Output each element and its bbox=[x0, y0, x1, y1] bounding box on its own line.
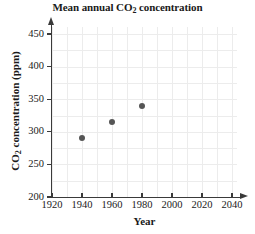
gridline-horizontal bbox=[52, 164, 237, 165]
gridline-horizontal bbox=[52, 83, 237, 84]
plot-area bbox=[52, 27, 237, 197]
gridline-horizontal bbox=[52, 116, 237, 117]
x-axis-tick bbox=[201, 193, 202, 198]
x-axis-tick bbox=[171, 193, 172, 198]
gridline-vertical bbox=[187, 27, 188, 197]
gridline-horizontal bbox=[52, 181, 237, 182]
gridline-vertical bbox=[142, 27, 143, 197]
chart-title-subscript: 2 bbox=[132, 6, 136, 15]
gridline-horizontal bbox=[52, 50, 237, 51]
y-axis-tick bbox=[47, 164, 52, 165]
gridline-vertical bbox=[97, 27, 98, 197]
gridline-horizontal bbox=[52, 99, 237, 100]
y-axis-tick bbox=[47, 66, 52, 67]
chart-title-after: concentration bbox=[136, 1, 202, 13]
gridline-vertical bbox=[217, 27, 218, 197]
x-axis-tick bbox=[141, 193, 142, 198]
y-axis-tick bbox=[47, 33, 52, 34]
gridline-horizontal bbox=[52, 132, 237, 133]
y-axis-title: CO2 concentration (ppm) bbox=[9, 24, 21, 199]
y-axis-tick bbox=[47, 131, 52, 132]
y-axis-line bbox=[51, 24, 52, 198]
gridline-horizontal bbox=[52, 34, 237, 35]
y-axis-title-subscript: 2 bbox=[14, 150, 23, 154]
y-axis-arrow-icon bbox=[48, 17, 54, 25]
chart-title: Mean annual CO2 concentration bbox=[0, 1, 255, 13]
data-point bbox=[109, 119, 115, 125]
y-axis-tick-label: 400 bbox=[4, 61, 44, 72]
gridline-vertical bbox=[202, 27, 203, 197]
gridline-vertical bbox=[82, 27, 83, 197]
gridline-vertical bbox=[112, 27, 113, 197]
y-axis-tick-label: 350 bbox=[4, 94, 44, 105]
gridline-horizontal bbox=[52, 67, 237, 68]
y-axis-tick-label: 250 bbox=[4, 159, 44, 170]
y-axis-tick-label: 300 bbox=[4, 126, 44, 137]
data-point bbox=[139, 103, 145, 109]
gridline-vertical bbox=[157, 27, 158, 197]
x-axis-tick bbox=[231, 193, 232, 198]
gridline-vertical bbox=[232, 27, 233, 197]
x-axis-tick-label: 2040 bbox=[212, 200, 252, 211]
gridline-horizontal bbox=[52, 148, 237, 149]
chart-figure: Mean annual CO2 concentration Year CO2 c… bbox=[0, 0, 255, 234]
y-axis-tick-label: 450 bbox=[4, 29, 44, 40]
gridline-vertical bbox=[67, 27, 68, 197]
y-axis-tick bbox=[47, 99, 52, 100]
x-axis-tick bbox=[111, 193, 112, 198]
gridline-vertical bbox=[172, 27, 173, 197]
x-axis-tick bbox=[81, 193, 82, 198]
gridline-vertical bbox=[127, 27, 128, 197]
x-axis-line bbox=[51, 197, 241, 198]
chart-title-before: Mean annual CO bbox=[53, 1, 133, 13]
x-axis-tick bbox=[51, 193, 52, 198]
x-axis-title: Year bbox=[52, 215, 237, 227]
